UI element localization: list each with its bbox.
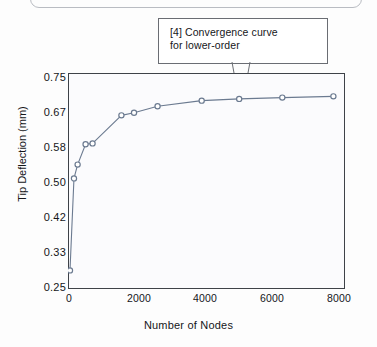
convergence-callout-box: [4] Convergence curve for lower-order [158,18,328,64]
series-line-group [70,96,333,270]
data-point-marker [68,268,73,273]
data-point-marker [83,142,88,147]
x-tick-label: 2000 [127,292,151,304]
x-tick-label: 0 [66,292,72,304]
y-axis-title: Tip Deflection (mm) [16,84,28,224]
x-tick-label: 6000 [260,292,284,304]
y-tick-label: 0.33 [20,246,66,258]
data-point-marker [199,98,204,103]
series-markers [68,94,336,273]
data-point-marker [90,141,95,146]
data-point-marker [75,162,80,167]
data-point-marker [280,95,285,100]
data-point-marker [237,96,242,101]
y-tick-label: 0.25 [20,281,66,293]
data-point-marker [331,94,336,99]
x-tick-label: 8000 [327,292,351,304]
clipped-rounded-box-top [30,0,362,8]
x-axis-title: Number of Nodes [0,319,377,331]
data-point-marker [131,110,136,115]
chart-plot-svg [68,73,345,289]
callout-line-1: [4] Convergence curve [170,26,327,39]
data-point-marker [71,176,76,181]
y-tick-label: 0.75 [20,71,66,83]
series-line [70,96,333,270]
x-tick-label: 4000 [193,292,217,304]
chart-screenshot: [4] Convergence curve for lower-order 0.… [0,0,377,347]
data-point-marker [119,113,124,118]
data-point-marker [155,104,160,109]
callout-line-2: for lower-order [170,39,327,52]
